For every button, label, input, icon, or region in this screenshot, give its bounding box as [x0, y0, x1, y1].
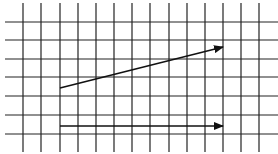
grid-horizontal-lines [5, 22, 278, 134]
grid-diagram [0, 0, 278, 154]
sloped-vector-arrow [60, 47, 223, 88]
